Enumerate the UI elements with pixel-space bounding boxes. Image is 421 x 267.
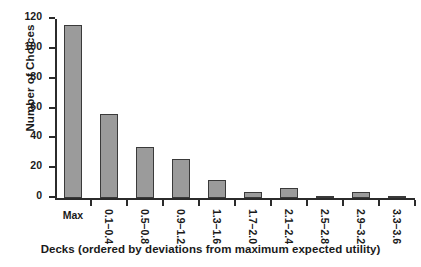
bar xyxy=(388,196,406,198)
bar xyxy=(280,188,298,198)
x-axis-tick xyxy=(90,200,92,206)
x-axis-tick-label: 0.9–1.2 xyxy=(175,209,187,244)
x-axis-tick-label: 2.5–2.8 xyxy=(319,209,331,244)
bar-chart-figure: Number of Choices 020406080100120 Max0.1… xyxy=(0,0,421,267)
y-axis-tick-label: 80 xyxy=(30,69,42,83)
x-axis-tick xyxy=(126,200,128,206)
y-axis-tick: 80 xyxy=(49,77,55,79)
x-axis-tick-label: 1.3–1.6 xyxy=(211,209,223,244)
x-axis-tick xyxy=(270,200,272,206)
bar xyxy=(244,192,262,198)
y-axis-tick-label: 0 xyxy=(36,188,42,202)
x-axis-tick-label: Max xyxy=(63,209,83,221)
x-axis-tick-label: 2.1–2.4 xyxy=(283,209,295,244)
plot-area: 020406080100120 Max0.1–0.40.5–0.80.9–1.2… xyxy=(55,19,415,198)
y-axis-tick: 60 xyxy=(49,107,55,109)
bar xyxy=(172,159,190,198)
x-axis-tick xyxy=(414,200,416,206)
y-axis-tick: 120 xyxy=(49,17,55,19)
y-axis-tick: 40 xyxy=(49,136,55,138)
x-axis-title: Decks (ordered by deviations from maximu… xyxy=(0,243,421,255)
x-axis-tick-label: 2.9–3.2 xyxy=(355,209,367,244)
y-axis-tick-label: 120 xyxy=(24,9,42,23)
x-axis-tick xyxy=(234,200,236,206)
x-axis-tick xyxy=(162,200,164,206)
bar xyxy=(316,196,334,198)
x-axis-tick xyxy=(306,200,308,206)
y-axis-tick-label: 100 xyxy=(24,39,42,53)
bar xyxy=(136,147,154,198)
x-axis-tick-label: 3.3–3.6 xyxy=(391,209,403,244)
y-axis-tick: 0 xyxy=(49,196,55,198)
x-axis-tick xyxy=(342,200,344,206)
x-axis-tick-label: 1.7–2.0 xyxy=(247,209,259,244)
y-axis-line xyxy=(55,19,57,199)
y-axis-tick-label: 60 xyxy=(30,99,42,113)
x-axis-tick xyxy=(198,200,200,206)
bar xyxy=(100,114,118,198)
bar xyxy=(64,25,82,198)
bar xyxy=(208,180,226,198)
y-axis-tick: 100 xyxy=(49,47,55,49)
x-axis-tick-label: 0.1–0.4 xyxy=(103,209,115,244)
y-axis-tick-label: 20 xyxy=(30,158,42,172)
y-axis-tick: 20 xyxy=(49,166,55,168)
bar xyxy=(352,192,370,198)
x-axis-tick xyxy=(378,200,380,206)
x-axis-tick-label: 0.5–0.8 xyxy=(139,209,151,244)
y-axis-tick-label: 40 xyxy=(30,128,42,142)
